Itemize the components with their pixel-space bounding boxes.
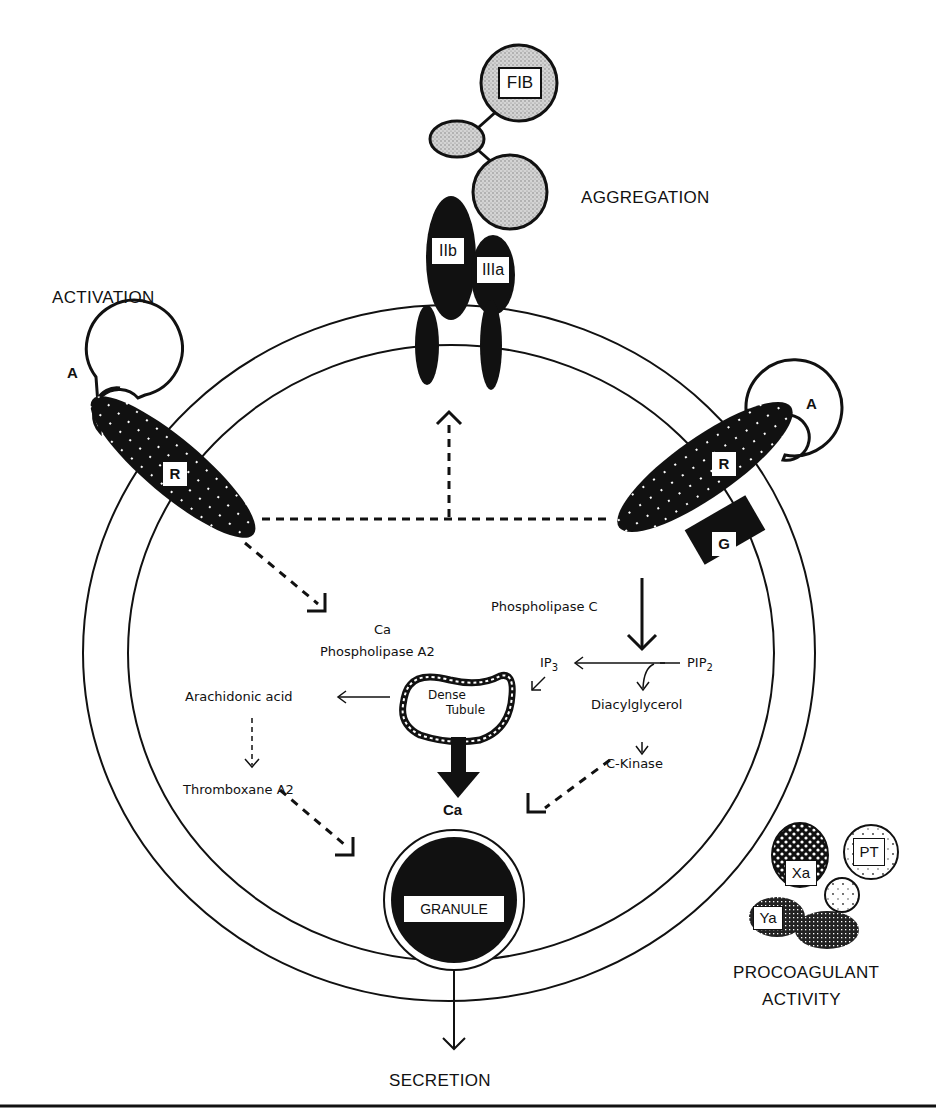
activity-label: ACTIVITY <box>762 990 841 1010</box>
left-agonist-label: A <box>67 364 78 381</box>
c-kinase-label: C-Kinase <box>606 756 663 771</box>
ip3-label: IP3 <box>540 655 558 673</box>
factor-ya-label: Ya <box>753 906 783 930</box>
procoagulant-label: PROCOAGULANT <box>733 963 879 983</box>
thromboxane-a2-label: Thromboxane A2 <box>183 782 294 797</box>
aggregation-label: AGGREGATION <box>581 188 710 208</box>
gp-iiia-label: IIIa <box>477 257 509 283</box>
granule-label: GRANULE <box>404 896 504 922</box>
activation-label: ACTIVATION <box>52 288 155 308</box>
left-receptor-label: R <box>163 462 187 486</box>
pip2-label: PIP2 <box>687 655 713 673</box>
factor-xa-label: Xa <box>785 860 817 886</box>
ca-cofactor-label: Ca <box>374 622 391 637</box>
calcium-release-label: Ca <box>443 801 462 818</box>
platelet-diagram-canvas <box>0 0 936 1119</box>
diacylglycerol-label: Diacylglycerol <box>591 697 682 712</box>
dense-tubule-label-2: Tubule <box>446 703 485 717</box>
arachidonic-acid-label: Arachidonic acid <box>185 689 293 704</box>
phospholipase-a2-label: Phospholipase A2 <box>320 644 435 659</box>
phospholipase-c-label: Phospholipase C <box>491 599 598 614</box>
gp-iib-label: IIb <box>432 238 464 264</box>
fibrinogen-label: FIB <box>498 67 542 99</box>
granule <box>384 830 524 1049</box>
right-receptor-label: R <box>712 452 736 476</box>
prothrombin-label: PT <box>853 838 885 866</box>
left-agonist-receptor <box>75 300 272 556</box>
dense-tubule-label-1: Dense <box>428 688 466 702</box>
right-agonist-label: A <box>806 395 817 412</box>
activation-signal-lines <box>245 412 610 855</box>
g-protein-label: G <box>712 532 736 556</box>
secretion-label: SECRETION <box>389 1071 491 1091</box>
